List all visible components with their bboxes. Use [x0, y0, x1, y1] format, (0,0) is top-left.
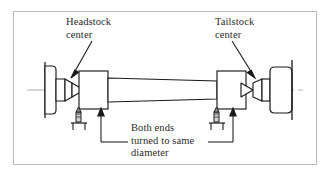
tailstock-quill: [262, 79, 270, 101]
label-headstock-line2: center: [66, 29, 111, 42]
tailstock-body: [270, 60, 292, 120]
headstock-spindle-nose: [45, 62, 56, 118]
label-tailstock-center: Tailstock center: [215, 16, 254, 41]
label-headstock-line1: Headstock: [66, 16, 111, 29]
cutting-tool-right: [209, 107, 225, 130]
label-headstock-center: Headstock center: [66, 16, 111, 41]
label-both-ends-turned: Both ends turned to same diameter: [131, 122, 194, 160]
label-both-ends-line2: turned to same: [131, 135, 194, 148]
cutting-tool-left: [71, 107, 87, 130]
label-both-ends-line3: diameter: [131, 147, 194, 160]
workpiece-left-end: [79, 71, 108, 109]
figure-canvas: Headstock center Tailstock center Both e…: [0, 0, 332, 181]
leader-both-ends-right: [208, 108, 236, 142]
label-both-ends-line1: Both ends: [131, 122, 194, 135]
workpiece-shaft: [108, 78, 217, 102]
label-tailstock-line2: center: [215, 29, 254, 42]
label-tailstock-line1: Tailstock: [215, 16, 254, 29]
leader-both-ends-left: [98, 108, 128, 142]
